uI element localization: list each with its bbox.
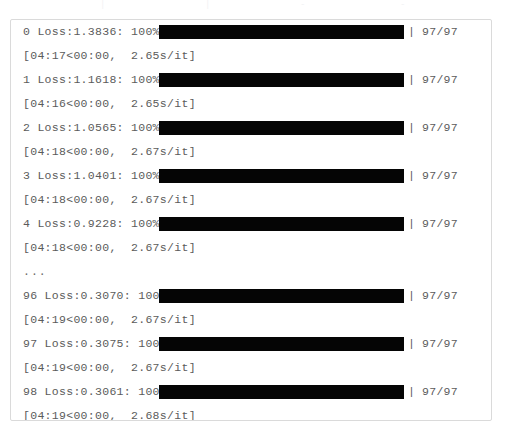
progress-bar-close-delimiter: | xyxy=(408,164,415,188)
log-row-progress: 96 Loss:0.3070: 100%||97/97 xyxy=(11,284,491,308)
progress-bar-close-delimiter: | xyxy=(408,284,415,308)
progress-prefix: 2 Loss:1.0565: 100%| xyxy=(23,116,167,140)
progress-iteration-count: 97/97 xyxy=(422,116,458,140)
log-row-progress: 2 Loss:1.0565: 100%||97/97 xyxy=(11,116,491,140)
progress-iteration-count: 97/97 xyxy=(422,20,458,44)
progress-bar-close-delimiter: | xyxy=(408,116,415,140)
log-row-timing: [04:19<00:00, 2.68s/it] xyxy=(11,404,491,421)
log-row-progress: 1 Loss:1.1618: 100%||97/97 xyxy=(11,68,491,92)
log-row-timing: [04:19<00:00, 2.67s/it] xyxy=(11,308,491,332)
progress-prefix: 0 Loss:1.3836: 100%| xyxy=(23,20,167,44)
timing-text: [04:18<00:00, 2.67s/it] xyxy=(23,140,196,164)
log-row-timing: [04:19<00:00, 2.67s/it] xyxy=(11,356,491,380)
progress-bar-fill xyxy=(159,73,404,87)
progress-iteration-count: 97/97 xyxy=(422,68,458,92)
log-output: 0 Loss:1.3836: 100%||97/97[04:17<00:00, … xyxy=(11,20,491,421)
progress-prefix: 1 Loss:1.1618: 100%| xyxy=(23,68,167,92)
timing-text: [04:18<00:00, 2.67s/it] xyxy=(23,236,196,260)
progress-iteration-count: 97/97 xyxy=(422,284,458,308)
timing-text: [04:17<00:00, 2.65s/it] xyxy=(23,44,196,68)
progress-bar-close-delimiter: | xyxy=(408,212,415,236)
progress-iteration-count: 97/97 xyxy=(422,164,458,188)
progress-prefix: 96 Loss:0.3070: 100%| xyxy=(23,284,174,308)
clipped-artifact: - xyxy=(300,0,305,10)
progress-prefix: 3 Loss:1.0401: 100%| xyxy=(23,164,167,188)
progress-bar-fill xyxy=(159,289,404,303)
progress-prefix: 97 Loss:0.3075: 100%| xyxy=(23,332,174,356)
log-row-progress: 98 Loss:0.3061: 100%||97/97 xyxy=(11,380,491,404)
progress-bar-close-delimiter: | xyxy=(408,380,415,404)
progress-bar-fill xyxy=(159,217,404,231)
progress-iteration-count: 97/97 xyxy=(422,212,458,236)
log-row-progress: 97 Loss:0.3075: 100%||97/97 xyxy=(11,332,491,356)
log-row-progress: 3 Loss:1.0401: 100%||97/97 xyxy=(11,164,491,188)
timing-text: [04:16<00:00, 2.65s/it] xyxy=(23,92,196,116)
progress-bar-fill xyxy=(159,337,404,351)
progress-bar-fill xyxy=(159,385,404,399)
progress-bar-close-delimiter: | xyxy=(408,68,415,92)
ellipsis-text: ... xyxy=(23,260,47,284)
progress-iteration-count: 97/97 xyxy=(422,380,458,404)
timing-text: [04:19<00:00, 2.67s/it] xyxy=(23,356,196,380)
timing-text: [04:19<00:00, 2.68s/it] xyxy=(23,404,196,421)
progress-bar-close-delimiter: | xyxy=(408,332,415,356)
log-row-timing: [04:16<00:00, 2.65s/it] xyxy=(11,92,491,116)
progress-bar-fill xyxy=(159,25,404,39)
progress-bar-close-delimiter: | xyxy=(408,20,415,44)
log-row-timing: [04:18<00:00, 2.67s/it] xyxy=(11,236,491,260)
log-row-timing: [04:18<00:00, 2.67s/it] xyxy=(11,188,491,212)
timing-text: [04:19<00:00, 2.67s/it] xyxy=(23,308,196,332)
progress-bar-fill xyxy=(159,121,404,135)
progress-prefix: 4 Loss:0.9228: 100%| xyxy=(23,212,167,236)
progress-iteration-count: 97/97 xyxy=(422,332,458,356)
log-row-ellipsis: ... xyxy=(11,260,491,284)
clipped-artifacts-strip: ||-- xyxy=(0,0,517,16)
training-log-panel: 0 Loss:1.3836: 100%||97/97[04:17<00:00, … xyxy=(10,19,492,421)
clipped-artifact: - xyxy=(400,0,405,10)
log-row-progress: 4 Loss:0.9228: 100%||97/97 xyxy=(11,212,491,236)
clipped-artifact: | xyxy=(100,0,105,10)
timing-text: [04:18<00:00, 2.67s/it] xyxy=(23,188,196,212)
log-row-timing: [04:17<00:00, 2.65s/it] xyxy=(11,44,491,68)
clipped-artifact: | xyxy=(205,0,210,10)
progress-prefix: 98 Loss:0.3061: 100%| xyxy=(23,380,174,404)
log-row-timing: [04:18<00:00, 2.67s/it] xyxy=(11,140,491,164)
progress-bar-fill xyxy=(159,169,404,183)
log-row-progress: 0 Loss:1.3836: 100%||97/97 xyxy=(11,20,491,44)
